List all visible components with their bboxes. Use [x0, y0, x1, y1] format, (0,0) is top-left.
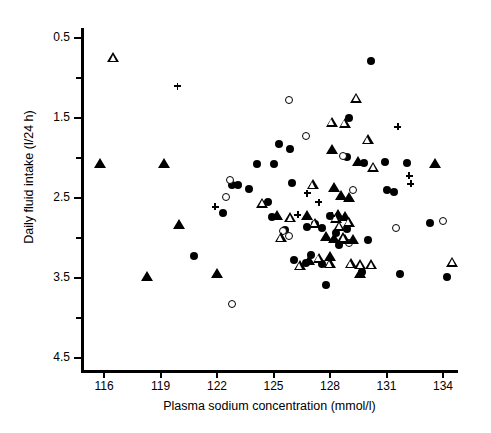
- x-tick-label: 131: [367, 379, 407, 393]
- y-axis-title: Daily fluid intake (l/24 h): [22, 82, 36, 272]
- x-tick: [216, 373, 218, 378]
- data-point-open-circle: [285, 96, 293, 104]
- y-tick-minor: [76, 157, 81, 159]
- data-point-filled-circle: [367, 57, 375, 65]
- data-point-open-triangle: [446, 257, 458, 267]
- data-point-filled-circle: [253, 160, 261, 168]
- data-point-open-triangle: [256, 198, 268, 208]
- x-axis-title: Plasma sodium concentration (mmol/l): [81, 399, 458, 413]
- data-point-open-triangle: [326, 117, 338, 127]
- y-tick-minor: [76, 237, 81, 239]
- y-tick-label: 2.5: [36, 190, 70, 204]
- data-point-filled-circle: [286, 145, 294, 153]
- data-point-filled-circle: [403, 159, 411, 167]
- y-axis-line: [81, 28, 84, 373]
- data-point-open-triangle: [294, 260, 306, 270]
- scatter-plot-figure: 4.53.52.51.50.5 116119122125128131134 Da…: [0, 0, 491, 433]
- data-point-open-triangle: [343, 217, 355, 227]
- x-tick-label: 116: [84, 379, 124, 393]
- y-tick-major: [74, 277, 81, 279]
- data-point-filled-triangle: [141, 271, 153, 281]
- data-point-plus: [294, 211, 301, 218]
- data-point-filled-circle: [234, 181, 242, 189]
- data-point-filled-triangle: [429, 158, 441, 168]
- y-tick-label: 0.5: [36, 30, 70, 44]
- x-tick-label: 119: [141, 379, 181, 393]
- data-point-plus: [212, 203, 219, 210]
- x-tick-label: 134: [423, 379, 463, 393]
- data-point-filled-circle: [275, 140, 283, 148]
- data-point-filled-triangle: [326, 144, 338, 154]
- x-tick-label: 125: [254, 379, 294, 393]
- data-point-plus: [174, 83, 181, 90]
- data-point-open-triangle: [107, 52, 119, 62]
- data-point-open-triangle: [367, 162, 379, 172]
- data-point-plus: [304, 190, 311, 197]
- plot-area: 4.53.52.51.50.5 116119122125128131134 Da…: [0, 0, 491, 433]
- x-tick-label: 128: [310, 379, 350, 393]
- data-point-filled-triangle: [211, 268, 223, 278]
- y-tick-label: 4.5: [36, 350, 70, 364]
- data-point-filled-circle: [322, 281, 330, 289]
- y-tick-major: [74, 357, 81, 359]
- y-tick-major: [74, 117, 81, 119]
- data-point-plus: [406, 172, 413, 179]
- data-point-filled-triangle: [271, 210, 283, 220]
- x-tick-label: 122: [197, 379, 237, 393]
- data-point-open-circle: [392, 224, 400, 232]
- data-point-open-triangle: [313, 253, 325, 263]
- data-point-plus: [394, 123, 401, 130]
- data-point-open-triangle: [365, 259, 377, 269]
- data-point-open-triangle: [339, 118, 351, 128]
- x-tick: [329, 373, 331, 378]
- data-point-open-triangle: [307, 179, 319, 189]
- data-point-open-triangle: [324, 258, 336, 268]
- y-tick-label: 1.5: [36, 110, 70, 124]
- data-point-filled-triangle: [158, 158, 170, 168]
- data-point-open-circle: [439, 217, 447, 225]
- data-point-filled-circle: [390, 188, 398, 196]
- data-point-filled-circle: [396, 270, 404, 278]
- data-point-filled-triangle: [354, 268, 366, 278]
- data-point-filled-circle: [443, 273, 451, 281]
- data-point-open-circle: [302, 132, 310, 140]
- data-point-open-triangle: [275, 232, 287, 242]
- data-point-filled-circle: [219, 209, 227, 217]
- data-point-filled-circle: [270, 160, 278, 168]
- y-tick-major: [74, 37, 81, 39]
- data-point-open-triangle: [362, 134, 374, 144]
- data-point-filled-triangle: [343, 192, 355, 202]
- x-tick: [103, 373, 105, 378]
- y-tick-major: [74, 197, 81, 199]
- y-tick-minor: [76, 77, 81, 79]
- y-tick-minor: [76, 317, 81, 319]
- data-point-open-circle: [228, 300, 236, 308]
- data-point-plus: [315, 199, 322, 206]
- data-point-filled-triangle: [173, 219, 185, 229]
- data-point-filled-circle: [364, 236, 372, 244]
- data-point-filled-triangle: [94, 158, 106, 168]
- data-point-filled-circle: [288, 179, 296, 187]
- data-point-filled-circle: [381, 158, 389, 166]
- x-tick: [273, 373, 275, 378]
- x-axis-line: [81, 370, 458, 373]
- data-point-open-circle: [222, 193, 230, 201]
- data-point-plus: [328, 212, 335, 219]
- data-point-open-triangle: [309, 218, 321, 228]
- data-point-open-triangle: [337, 232, 349, 242]
- data-point-open-triangle: [354, 259, 366, 269]
- data-point-filled-circle: [383, 186, 391, 194]
- data-point-filled-circle: [245, 185, 253, 193]
- data-point-filled-triangle: [352, 156, 364, 166]
- data-point-plus: [407, 180, 414, 187]
- x-tick: [386, 373, 388, 378]
- y-tick-label: 3.5: [36, 270, 70, 284]
- data-point-open-triangle: [350, 93, 362, 103]
- x-tick: [442, 373, 444, 378]
- x-tick: [160, 373, 162, 378]
- data-point-filled-circle: [426, 219, 434, 227]
- data-point-filled-circle: [190, 252, 198, 260]
